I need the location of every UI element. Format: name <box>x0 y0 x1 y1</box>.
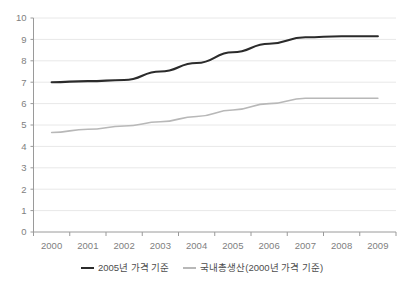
x-tick-label: 2005 <box>222 240 243 251</box>
x-tick-label: 2008 <box>331 240 352 251</box>
x-tick-label: 2001 <box>77 240 98 251</box>
y-tick-label: 6 <box>21 98 26 109</box>
chart-canvas: 012345678910 200020012002200320042005200… <box>0 0 404 282</box>
x-tick-label: 2009 <box>367 240 388 251</box>
legend-swatch-icon-series-1 <box>183 267 196 269</box>
y-tick-label: 0 <box>21 226 26 237</box>
y-tick-label: 7 <box>21 77 26 88</box>
y-tick-label: 1 <box>21 205 26 216</box>
legend-item-series-0[interactable]: 2005년 가격 기준 <box>81 263 169 273</box>
x-tick-label: 2003 <box>150 240 171 251</box>
legend-label-series-0: 2005년 가격 기준 <box>98 263 169 273</box>
x-tick-label: 2002 <box>114 240 135 251</box>
x-tick-label: 2006 <box>259 240 280 251</box>
x-tick-label: 2004 <box>186 240 207 251</box>
y-tick-label: 4 <box>21 141 26 152</box>
legend-swatch-icon-series-0 <box>81 267 94 269</box>
x-tick-label: 2007 <box>295 240 316 251</box>
y-tick-label: 8 <box>21 55 26 66</box>
y-tick-label: 2 <box>21 184 26 195</box>
legend-item-series-1[interactable]: 국내총생산(2000년 가격 기준) <box>183 263 323 273</box>
y-tick-label: 5 <box>21 119 26 130</box>
x-tick-label: 2000 <box>41 240 62 251</box>
legend-label-series-1: 국내총생산(2000년 가격 기준) <box>200 263 323 273</box>
y-tick-label: 3 <box>21 162 26 173</box>
chart-legend: 2005년 가격 기준 국내총생산(2000년 가격 기준) <box>0 258 404 278</box>
line-chart: 012345678910 200020012002200320042005200… <box>0 0 404 282</box>
y-tick-label: 9 <box>21 34 26 45</box>
y-tick-label: 10 <box>16 12 27 23</box>
